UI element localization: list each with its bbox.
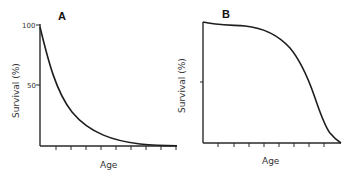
chart-a: A 100 50 Survival (%) Age [11,10,177,170]
chart-a-x-label: Age [100,160,118,170]
chart-b-x-label: Age [262,156,280,166]
chart-a-y-label: Survival (%) [11,63,21,118]
survival-curves-figure: A 100 50 Survival (%) Age B [0,0,351,178]
chart-b-survival-curve [203,22,341,143]
chart-a-ytick-label-50: 50 [27,82,36,90]
chart-a-survival-curve [40,27,177,146]
panel-a-label: A [58,10,66,22]
chart-b: B Survival (%) Age [177,8,341,166]
chart-a-ytick-label-100: 100 [22,22,35,30]
panel-b-label: B [222,8,230,20]
chart-b-y-label: Survival (%) [177,58,187,113]
